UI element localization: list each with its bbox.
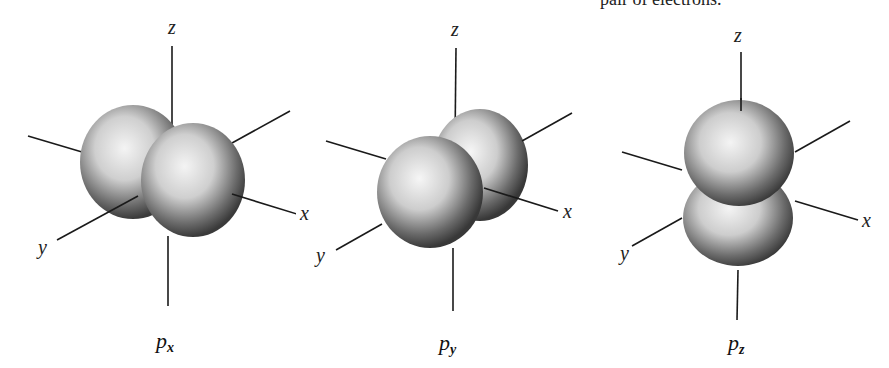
x-axis-label: x: [299, 202, 309, 224]
x-axis-front: [232, 194, 296, 215]
py-lobe-front: [377, 136, 483, 248]
px-lobe-front: [141, 123, 245, 237]
x-axis-front: [795, 201, 858, 220]
y-axis-back: [28, 136, 82, 152]
y-axis-back: [326, 141, 386, 159]
z-axis-label: z: [167, 16, 176, 38]
px-x-label-holder: x: [296, 0, 316, 368]
orbital-panel-px: z y px: [0, 0, 296, 368]
py-orbital-diagram: z y x py: [300, 0, 596, 368]
y-axis-label: y: [36, 236, 47, 259]
y-axis-front: [632, 218, 682, 246]
z-axis-bottom: [737, 270, 738, 320]
x-axis-label: x: [562, 200, 572, 222]
px-orbital-diagram: z y px: [0, 0, 296, 368]
px-caption: px: [154, 328, 174, 355]
y-axis-label: y: [618, 242, 629, 265]
x-axis-back: [232, 111, 290, 143]
orbital-panel-pz: z y x pz: [590, 0, 886, 368]
py-caption: py: [437, 330, 457, 357]
x-axis-label: x: [861, 209, 871, 231]
x-axis-back: [795, 121, 850, 152]
y-axis-front: [336, 224, 382, 250]
orbital-panel-py: z y x py: [300, 0, 596, 368]
z-axis-label: z: [733, 24, 742, 46]
x-axis-back: [522, 113, 572, 141]
pz-orbital-diagram: z y x pz: [590, 0, 889, 368]
pz-lobe-top: [684, 100, 794, 206]
y-axis-back: [622, 152, 682, 170]
pz-caption: pz: [726, 330, 745, 357]
z-axis-label: z: [450, 18, 459, 40]
